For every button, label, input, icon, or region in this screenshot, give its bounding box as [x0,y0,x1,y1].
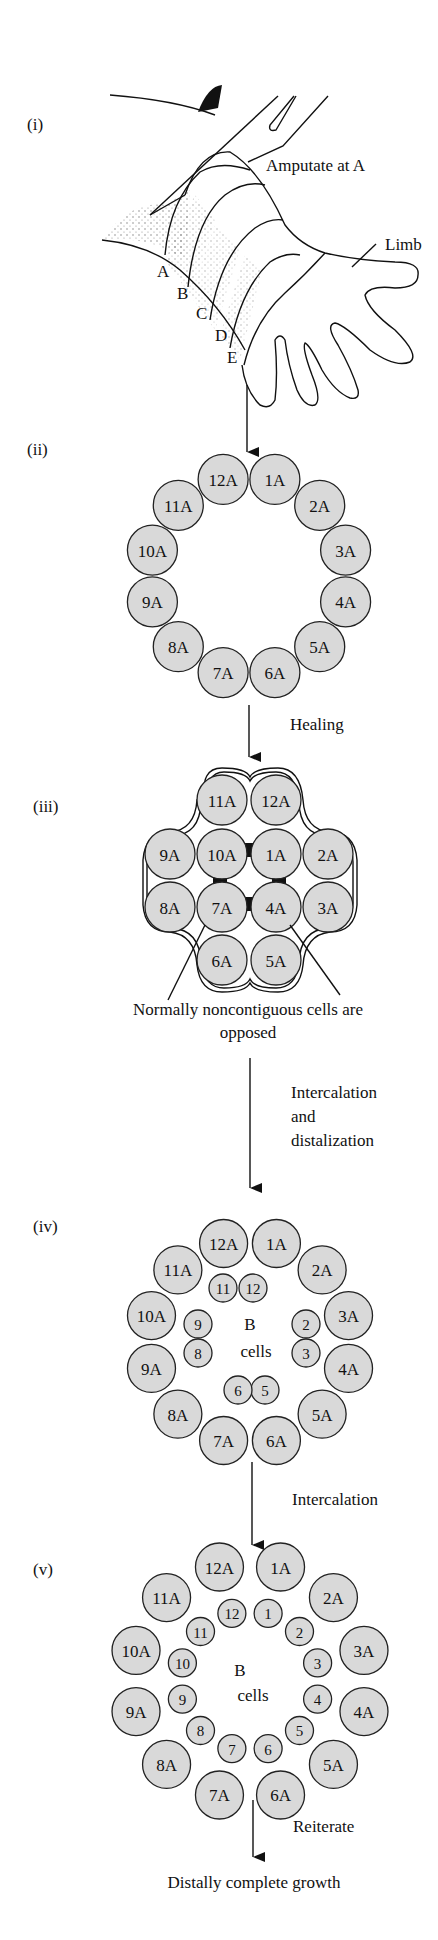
cell-label: 12A [209,1235,239,1254]
cell-label: 1A [270,1559,292,1578]
cell-ring-v: 1A2A3A4A5A6A7A8A9A10A11A12A1234567891011… [112,1543,388,1819]
cell-label: 10A [137,1307,167,1326]
cell-label: 9A [126,1703,148,1722]
cell-label: 9A [141,1360,163,1379]
cell-label: 11 [216,1281,230,1297]
cell-label: 2 [296,1625,304,1641]
center-label-v-1: B [234,1661,245,1680]
limb-label: Limb [385,235,422,254]
cell-label: 8A [160,899,182,918]
cell-label: 4A [266,899,288,918]
cell-label: 12A [205,1559,235,1578]
cell-label: 9 [179,1692,187,1708]
cell-label: 6 [264,1742,272,1758]
stage-ii: (ii) 1A2A3A4A5A6A7A8A9A10A11A12A [27,440,371,698]
scalpel-handle-line [110,95,215,115]
cell-label: 6A [264,664,286,683]
cell-label: 5 [261,1383,269,1399]
cell-label: 6A [270,1786,292,1805]
cell-label: 7A [212,899,234,918]
amputate-label: Amputate at A [266,156,366,175]
note-line-2: opposed [220,1023,277,1042]
cell-label: 5A [312,1406,334,1425]
cell-label: 9 [194,1317,202,1333]
transition-healing: Healing [290,715,344,734]
scalpel-blade-black [198,85,222,112]
cell-label: 2 [302,1317,310,1333]
stage-label-i: (i) [27,115,43,134]
transition-intercalation: Intercalation [292,1490,378,1509]
cell-label: 11A [164,497,193,516]
cell-label: 6A [266,1432,288,1451]
cell-label: 3 [302,1346,310,1362]
stage-v: (v) 1A2A3A4A5A6A7A8A9A10A11A12A123456789… [33,1543,388,1819]
wound-epidermis-outer [143,768,357,992]
cell-label: 3A [354,1642,376,1661]
level-label-d: D [215,326,227,345]
center-label-iv-1: B [244,1315,255,1334]
cell-label: 4A [338,1360,360,1379]
scalpel-slot [270,96,296,130]
cell-label: 5A [323,1756,345,1775]
stage-iii: (iii) 11A12A9A10A1A2A8A7A4A3A6A5A Normal… [33,768,363,1042]
cell-cluster-iii: 11A12A9A10A1A2A8A7A4A3A6A5A [145,775,353,985]
final-label: Distally complete growth [168,1873,341,1892]
cell-label: 7A [213,1432,235,1451]
level-label-a: A [157,262,170,281]
cell-label: 9A [142,593,164,612]
cell-label: 10 [175,1656,190,1672]
cell-label: 2A [323,1589,345,1608]
stage-label-iii: (iii) [33,797,59,816]
cell-label: 5A [266,952,288,971]
note-line-1: Normally noncontiguous cells are [133,1000,363,1019]
stage-label-iv: (iv) [33,1217,58,1236]
cell-label: 2A [309,497,331,516]
center-label-v-2: cells [237,1686,268,1705]
limb-pointer [352,244,376,267]
cell-label: 10A [207,846,237,865]
cell-ring-ii: 1A2A3A4A5A6A7A8A9A10A11A12A [127,454,370,697]
cell-label: 7A [213,664,235,683]
scalpel-edge-3 [248,96,328,162]
cell-label: 3A [335,542,357,561]
cell-label: 1A [266,846,288,865]
cell-label: 2A [312,1261,334,1280]
cell-label: 8A [167,1406,189,1425]
cell-label: 6 [234,1383,242,1399]
cell-label: 7 [228,1742,236,1758]
cell-label: 5 [296,1723,304,1739]
center-label-iv-2: cells [240,1342,271,1361]
cell-label: 11A [152,1589,181,1608]
regeneration-diagram: (i) A B C D E Amputate at A Limb [0,0,438,1940]
cell-label: 4 [314,1692,322,1708]
level-label-c: C [196,304,207,323]
stage-i: (i) A B C D E Amputate at A Limb [27,85,422,407]
cell-label: 12 [224,1606,239,1622]
cell-label: 5A [309,638,331,657]
cell-label: 1 [264,1606,272,1622]
cell-label: 3A [338,1307,360,1326]
cell-label: 11A [164,1261,193,1280]
cell-label: 6A [212,952,234,971]
cell-label: 10A [121,1642,151,1661]
cell-label: 8 [197,1723,205,1739]
stage-label-v: (v) [33,1560,53,1579]
cell-label: 12 [246,1281,261,1297]
cell-label: 11A [208,792,237,811]
cell-label: 12A [261,792,291,811]
level-label-b: B [177,284,188,303]
stage-label-ii: (ii) [27,440,48,459]
cell-label: 4A [335,593,357,612]
wound-epidermis-inner [147,772,353,988]
cell-label: 1A [264,471,286,490]
cell-label: 3 [314,1656,322,1672]
level-label-e: E [227,348,237,367]
cell-label: 4A [354,1703,376,1722]
cell-label: 7A [209,1786,231,1805]
transition-intercalation-distal-2: and [291,1107,316,1126]
cell-label: 11 [193,1625,207,1641]
transition-intercalation-distal-3: distalization [291,1131,375,1150]
stage-iv: (iv) 1A2A3A4A5A6A7A8A9A10A11A12A11122356… [33,1217,373,1465]
cell-label: 8A [156,1756,178,1775]
cell-label: 8 [194,1346,202,1362]
